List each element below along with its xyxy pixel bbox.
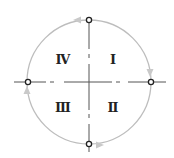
quadrant-label-i: Ⅰ [110,52,116,67]
node-right [148,79,153,84]
node-left [25,79,30,84]
quadrant-diagram: Ⅳ Ⅰ Ⅲ Ⅱ [0,0,174,158]
quadrant-label-ii: Ⅱ [108,100,119,115]
arrow-left-icon [24,86,31,94]
quadrant-label-iv: Ⅳ [56,52,71,67]
node-top [86,17,91,22]
quadrant-label-iii: Ⅲ [55,100,71,115]
arrow-right-icon [147,69,154,77]
node-bottom [86,141,91,146]
